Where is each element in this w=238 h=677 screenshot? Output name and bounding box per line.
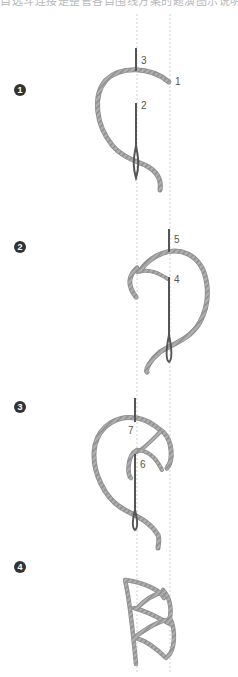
point-label-1: 1 — [175, 76, 181, 87]
step-4-illustration — [125, 580, 174, 664]
step-3-illustration: 7 6 — [94, 398, 171, 548]
point-label-3: 3 — [141, 55, 147, 66]
point-label-4: 4 — [174, 274, 180, 285]
step-2-illustration: 5 4 — [130, 229, 208, 372]
point-label-5: 5 — [174, 234, 180, 245]
needle — [134, 103, 139, 178]
stitch-diagram: 3 1 2 5 4 7 6 — [0, 0, 238, 677]
step-1-illustration: 3 1 2 — [97, 48, 181, 190]
point-label-6: 6 — [140, 459, 146, 470]
point-label-2: 2 — [141, 100, 147, 111]
point-label-7: 7 — [128, 425, 134, 436]
